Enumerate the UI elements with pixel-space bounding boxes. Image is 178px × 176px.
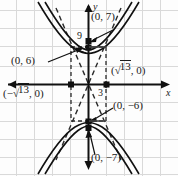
radicand-right: 13 [120,60,131,72]
y-axis-label: y [93,2,97,12]
point-corner-left [68,82,74,88]
label-corner-left: (−√13, 0) [2,87,44,99]
label-vertex-top: (0, 6) [11,55,35,66]
x-tick-label-3: 3 [98,88,103,98]
axes [8,6,164,166]
corner-right-tail: , 0) [131,64,146,76]
label-focus-bottom: (0, −7) [91,152,121,163]
label-focus-top: (0, 7) [91,11,115,22]
y-tick-label-9: 9 [77,31,82,41]
point-corner-right [104,82,110,88]
label-vertex-bottom: (0, −6) [113,100,143,111]
corner-left-open: (− [3,88,13,99]
point-focus-top [86,38,92,44]
radicand-left: 13 [18,83,29,95]
x-axis-label: x [166,88,170,98]
corner-left-tail: , 0) [29,87,44,99]
label-corner-right: (√13, 0) [110,64,145,76]
hyperbola-figure: (0, 7) 9 (0, 6) (√13, 0) (−√13, 0) 3 (0,… [0,0,178,176]
